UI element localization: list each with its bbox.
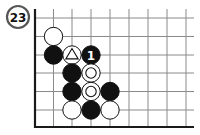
black-stone [101, 82, 119, 100]
white-stone [82, 82, 100, 100]
move-number-label: 1 [87, 49, 95, 63]
white-stone [63, 46, 81, 64]
problem-number: 23 [10, 11, 27, 25]
white-stone [101, 101, 119, 119]
white-stone [44, 27, 62, 45]
white-stone [82, 64, 100, 82]
black-stone [63, 64, 81, 82]
white-stone [63, 101, 81, 119]
black-stone [82, 101, 100, 119]
problem-badge: 23 [7, 6, 29, 28]
go-board: 23 1 [0, 0, 200, 135]
black-stone: 1 [82, 46, 100, 64]
black-stone [63, 82, 81, 100]
black-stone [44, 46, 62, 64]
